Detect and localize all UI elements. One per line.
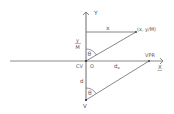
de-label: de [114, 63, 120, 70]
theta-upper-label: θ [88, 50, 92, 57]
vpr-label: VPR [145, 52, 155, 58]
v-label: V [83, 103, 87, 109]
y-over-m-denominator: M [76, 44, 80, 50]
v-marker [85, 99, 87, 101]
x-axis-label: X [158, 64, 162, 70]
y-over-m-numerator: y [76, 37, 79, 44]
y-axis-label: Y [93, 9, 98, 16]
origin-marker [85, 60, 87, 62]
point-label: (x, y/M) [137, 26, 156, 33]
origin-label: O [90, 63, 94, 69]
d-label: d [80, 78, 84, 84]
x-segment-label: x [106, 24, 110, 31]
theta-lower-label: θ [88, 89, 92, 96]
vpr-marker [148, 60, 150, 62]
projection-diagram: Y x (x, y/M) y M θ θ CV O de VPR X d V [0, 0, 174, 114]
upper-diagonal [86, 32, 136, 61]
cv-label: CV [76, 63, 83, 69]
